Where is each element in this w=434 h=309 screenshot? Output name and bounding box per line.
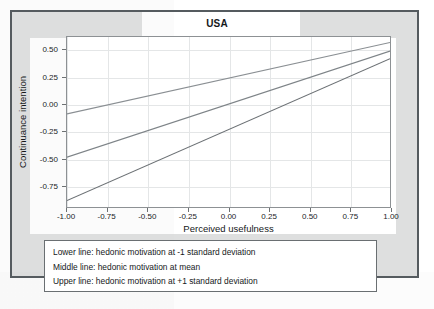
series-line [67,51,390,157]
y-axis-tick-label: 0.50 [24,45,58,54]
x-axis-tick-label: -0.50 [127,212,167,221]
x-axis-tick-label: 0.00 [209,212,249,221]
x-axis-tick-label: 0.75 [330,212,370,221]
x-axis-tick-label: -0.25 [168,212,208,221]
x-axis-tick-label: 0.25 [249,212,289,221]
legend-note-line-lower: Lower line: hedonic motivation at -1 sta… [53,245,376,260]
series-line [67,42,390,113]
x-axis-tick-label: -0.75 [87,212,127,221]
regression-lines [67,37,390,207]
y-axis-tick-label: -0.50 [24,154,58,163]
plot-inner [67,37,390,207]
x-axis-tick-label: -1.00 [46,212,86,221]
legend-note-box: Lower line: hedonic motivation at -1 sta… [44,240,377,292]
chart-title: USA [0,18,434,29]
x-axis-label: Perceived usefulness [66,223,391,234]
x-axis-tick-label: 1.00 [371,212,411,221]
legend-note-line-middle: Middle line: hedonic motivation at mean [53,260,376,275]
legend-note-line-upper: Upper line: hedonic motivation at +1 sta… [53,274,376,289]
x-axis-tick-label: 0.50 [290,212,330,221]
y-axis-tick-label: 0.00 [24,99,58,108]
y-axis-tick-label: -0.75 [24,182,58,191]
series-line [67,59,390,201]
plot-area [66,36,391,208]
screenshot-root: USA Continuance intention 0.500.250.00-0… [0,0,434,309]
page-caption-ghost [60,296,360,307]
y-axis-tick-label: 0.25 [24,72,58,81]
y-axis-tick-label: -0.25 [24,127,58,136]
